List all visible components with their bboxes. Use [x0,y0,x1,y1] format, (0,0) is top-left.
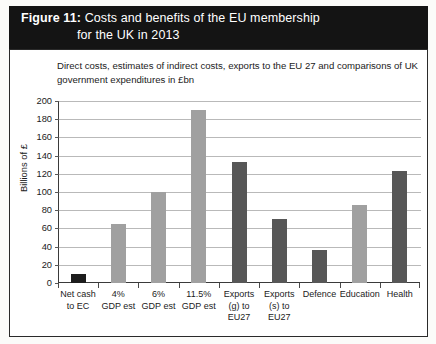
bar [191,110,206,283]
y-axis-title: Billions of £ [18,178,29,192]
x-axis-label-line: (s) to [255,301,303,313]
x-axis-tick [219,283,220,288]
x-axis-label-line: EU27 [255,312,303,324]
x-axis-tick [340,283,341,288]
bar [71,274,86,283]
bars-group [58,101,420,283]
x-axis-tick [179,283,180,288]
bar [232,162,247,283]
bar [272,219,287,283]
y-axis-tick-label: 200 [36,96,52,106]
y-axis-tick-label: 120 [36,169,52,179]
x-axis-label-line: Health [376,289,424,301]
x-axis-ticks-group [58,283,420,288]
figure-number: Figure 11: [21,11,81,25]
figure-panel: Figure 11: Costs and benefits of the EU … [0,0,436,344]
x-axis-tick [299,283,300,288]
x-axis-tick [259,283,260,288]
y-axis-tick-label: 60 [42,223,52,233]
figure-title-line-2: for the UK in 2013 [21,27,418,44]
y-axis-tick-label: 0 [47,278,52,288]
y-axis-tick-label: 40 [42,242,52,252]
bar [111,224,126,283]
y-axis-tick-label: 180 [36,114,52,124]
y-axis-tick-label: 140 [36,151,52,161]
bar [312,250,327,283]
chart-subtitle: Direct costs, estimates of indirect cost… [57,59,427,86]
figure-title-bar: Figure 11: Costs and benefits of the EU … [9,6,428,49]
x-axis-tick [98,283,99,288]
y-axis-tick-label: 100 [36,187,52,197]
x-axis-tick [380,283,381,288]
y-axis-tick-label: 160 [36,132,52,142]
figure-title-line-1: Figure 11: Costs and benefits of the EU … [21,10,418,27]
x-axis-tick [138,283,139,288]
x-axis-tick-label: Health [376,289,424,301]
y-axis-tick-label: 20 [42,260,52,270]
x-axis-tick [419,283,420,288]
bar [352,205,367,283]
figure-title-text-1: Costs and benefits of the EU membership [85,11,320,25]
x-axis-labels-group: Net cashto EC4%GDP est6%GDP est11.5%GDP … [58,289,420,334]
x-axis-tick [58,283,59,288]
bar [151,192,166,283]
y-axis-tick-label: 80 [42,205,52,215]
bar [392,171,407,283]
